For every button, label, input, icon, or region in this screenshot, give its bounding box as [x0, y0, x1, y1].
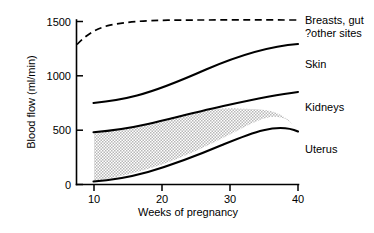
series-label-skin: Skin	[305, 58, 326, 71]
x-axis-label: Weeks of pregnancy	[76, 206, 300, 218]
series-label-breasts-gut-line2: ?other sites	[305, 27, 362, 40]
series-line-breasts-gut	[77, 20, 298, 45]
y-axis-label: Blood flow (ml/min)	[25, 27, 37, 177]
series-label-kidneys: Kidneys	[305, 101, 344, 114]
series-label-breasts-gut-line1: Breasts, gut	[305, 14, 364, 27]
blood-flow-chart: 1500 1000 500 0 10 20 30 40 Blood flow (…	[0, 0, 374, 233]
shaded-band-uterus-kidneys	[94, 108, 298, 181]
series-line-skin	[94, 44, 299, 103]
series-label-uterus: Uterus	[305, 143, 337, 156]
